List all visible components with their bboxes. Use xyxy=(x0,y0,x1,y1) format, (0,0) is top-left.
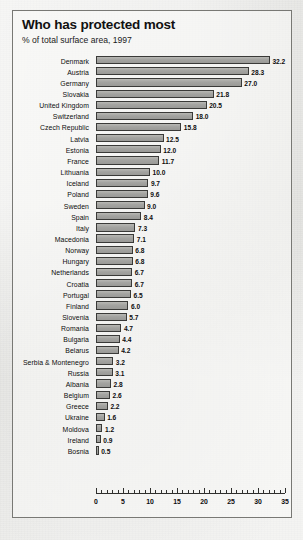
bar-track: 6.8 xyxy=(96,256,293,267)
x-axis-minor-tick xyxy=(269,490,270,493)
bar-category-label: Albania xyxy=(13,380,89,387)
bar-category-label: Belarus xyxy=(13,347,89,354)
bar xyxy=(96,201,145,209)
x-axis-minor-tick xyxy=(209,490,210,493)
bar-category-label: Macedonia xyxy=(13,235,89,242)
x-axis-minor-tick xyxy=(134,490,135,493)
bar-value-label: 6.7 xyxy=(135,269,144,276)
bar-track: 4.7 xyxy=(96,323,293,334)
chart-frame: Who has protected most % of total surfac… xyxy=(12,10,292,518)
x-axis-major-tick xyxy=(177,488,178,493)
bar-category-label: Spain xyxy=(13,213,89,220)
chart-title: Who has protected most xyxy=(22,17,175,32)
bar-category-label: Ireland xyxy=(13,436,89,443)
chart-subtitle: % of total surface area, 1997 xyxy=(22,35,132,45)
x-axis-tick-label: 35 xyxy=(281,498,289,505)
bar xyxy=(96,168,150,176)
bar xyxy=(96,90,214,98)
x-axis-minor-tick xyxy=(215,490,216,493)
bar xyxy=(96,313,127,321)
x-axis-minor-tick xyxy=(155,490,156,493)
bar-track: 4.4 xyxy=(96,334,293,345)
bar-value-label: 6.8 xyxy=(135,247,144,254)
bar-row: Netherlands6.7 xyxy=(13,267,293,278)
bar-row: Ireland0.9 xyxy=(13,434,293,445)
x-axis-minor-tick xyxy=(193,490,194,493)
x-axis-major-tick xyxy=(258,488,259,493)
x-axis-minor-tick xyxy=(145,490,146,493)
bar xyxy=(96,335,120,343)
x-axis-major-tick xyxy=(204,488,205,493)
bar-category-label: Greece xyxy=(13,403,89,410)
x-axis-minor-tick xyxy=(112,490,113,493)
x-axis: 05101520253035 xyxy=(96,493,288,519)
bar-track: 6.7 xyxy=(96,278,293,289)
bar-track: 2.6 xyxy=(96,390,293,401)
bar xyxy=(96,123,181,131)
bar-track: 9.7 xyxy=(96,178,293,189)
bar-row: Belarus4.2 xyxy=(13,345,293,356)
bar-value-label: 7.1 xyxy=(137,235,146,242)
bar-category-label: Serbia & Montenegro xyxy=(13,358,89,365)
bar-row: Macedonia7.1 xyxy=(13,233,293,244)
bar-row: Lithuania10.0 xyxy=(13,167,293,178)
x-axis-minor-tick xyxy=(188,490,189,493)
bar-category-label: Bosnia xyxy=(13,447,89,454)
bar-category-label: France xyxy=(13,157,89,164)
bar-category-label: Moldova xyxy=(13,425,89,432)
x-axis-line xyxy=(96,493,285,494)
bar xyxy=(96,145,161,153)
bar-track: 6.7 xyxy=(96,267,293,278)
bar-track: 9.6 xyxy=(96,189,293,200)
bar-row: Denmark32.2 xyxy=(13,55,293,66)
bar xyxy=(96,246,133,254)
bar-category-label: Netherlands xyxy=(13,269,89,276)
bar-value-label: 6.5 xyxy=(134,291,143,298)
bar-track: 15.8 xyxy=(96,122,293,133)
bar xyxy=(96,446,99,454)
x-axis-minor-tick xyxy=(242,490,243,493)
bar-value-label: 6.8 xyxy=(135,258,144,265)
bar-category-label: Romania xyxy=(13,325,89,332)
bar-category-label: Iceland xyxy=(13,180,89,187)
bar-track: 2.8 xyxy=(96,378,293,389)
x-axis-minor-tick xyxy=(101,490,102,493)
bar-value-label: 1.2 xyxy=(105,425,114,432)
bar-value-label: 2.2 xyxy=(110,403,119,410)
bar-value-label: 12.5 xyxy=(166,135,179,142)
bar-value-label: 6.0 xyxy=(131,302,140,309)
bar-track: 32.2 xyxy=(96,55,293,66)
bar-row: Slovenia5.7 xyxy=(13,311,293,322)
bar-category-label: Denmark xyxy=(13,57,89,64)
bar-value-label: 10.0 xyxy=(153,169,166,176)
bar xyxy=(96,56,270,64)
bar-value-label: 1.6 xyxy=(107,414,116,421)
bar xyxy=(96,257,133,265)
x-axis-tick-label: 5 xyxy=(121,498,125,505)
bar-value-label: 27.0 xyxy=(244,79,257,86)
bar-row: Spain8.4 xyxy=(13,211,293,222)
bar-row: Moldova1.2 xyxy=(13,423,293,434)
bar xyxy=(96,223,135,231)
bar-value-label: 5.7 xyxy=(129,314,138,321)
bar-category-label: Austria xyxy=(13,68,89,75)
bar xyxy=(96,357,113,365)
x-axis-minor-tick xyxy=(220,490,221,493)
bar-category-label: Latvia xyxy=(13,135,89,142)
bar-track: 6.8 xyxy=(96,245,293,256)
bar-value-label: 2.8 xyxy=(114,380,123,387)
bar-value-label: 32.2 xyxy=(272,57,285,64)
bar xyxy=(96,301,128,309)
bar-row: Bulgaria4.4 xyxy=(13,334,293,345)
bar-category-label: Lithuania xyxy=(13,169,89,176)
bar-track: 6.5 xyxy=(96,289,293,300)
bar-track: 0.9 xyxy=(96,434,293,445)
bar xyxy=(96,112,193,120)
x-axis-tick-label: 0 xyxy=(94,498,98,505)
bar xyxy=(96,78,242,86)
bar-row: United Kingdom20.5 xyxy=(13,100,293,111)
x-axis-minor-tick xyxy=(139,490,140,493)
bar-track: 27.0 xyxy=(96,77,293,88)
bar-value-label: 9.6 xyxy=(150,191,159,198)
bar-row: Estonia12.0 xyxy=(13,144,293,155)
